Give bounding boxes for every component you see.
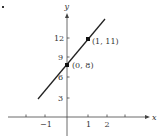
x-axis-arrow-icon: [145, 115, 150, 119]
y-tick-label: 9: [58, 53, 63, 62]
point-label: (1, 11): [92, 37, 119, 46]
x-tick-label: 1: [86, 120, 91, 129]
data-line: [38, 19, 105, 99]
point-label: (0, 8): [72, 61, 94, 70]
y-axis-arrow-icon: [65, 13, 69, 18]
point-marker: [65, 63, 69, 67]
x-tick-label: 2: [105, 120, 110, 129]
x-tick-label: −1: [40, 120, 52, 129]
y-tick-label: 12: [54, 34, 64, 43]
y-axis-label: y: [64, 2, 70, 11]
corner-dot: [2, 6, 4, 8]
y-tick-label: 3: [58, 94, 63, 103]
line-chart: x y −1 1 2 12 9 6 3 (0, 8) (1, 11): [0, 0, 157, 139]
x-axis-label: x: [152, 113, 157, 122]
point-marker: [86, 37, 90, 41]
